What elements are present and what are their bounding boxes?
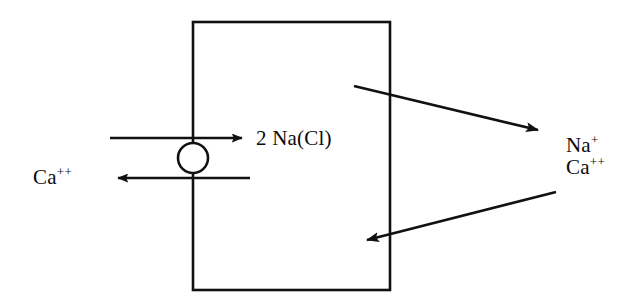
diagram-canvas [0, 0, 642, 306]
exchanger-circle [178, 143, 208, 173]
membrane-transport-diagram: Ca++ 2 Na(Cl) Na+ Ca++ [0, 0, 642, 306]
label-ion-pool-calcium: Ca++ [566, 156, 605, 178]
label-ion-pool-calcium-species: Ca [566, 155, 590, 179]
label-calcium-efflux-species: Ca [33, 165, 57, 189]
cell-compartment-box [193, 22, 390, 290]
label-calcium-efflux: Ca++ [33, 166, 72, 188]
label-calcium-efflux-charge: ++ [57, 164, 73, 179]
label-sodium-chloride-influx: 2 Na(Cl) [256, 127, 332, 149]
label-ion-pool-sodium-charge: + [591, 132, 599, 147]
label-ion-pool-calcium-charge: ++ [590, 154, 606, 169]
label-ion-pool: Na+ Ca++ [566, 134, 605, 179]
label-ion-pool-sodium: Na+ [566, 134, 605, 156]
inward-diagonal-arrow [367, 192, 556, 240]
label-ion-pool-sodium-species: Na [566, 133, 591, 157]
